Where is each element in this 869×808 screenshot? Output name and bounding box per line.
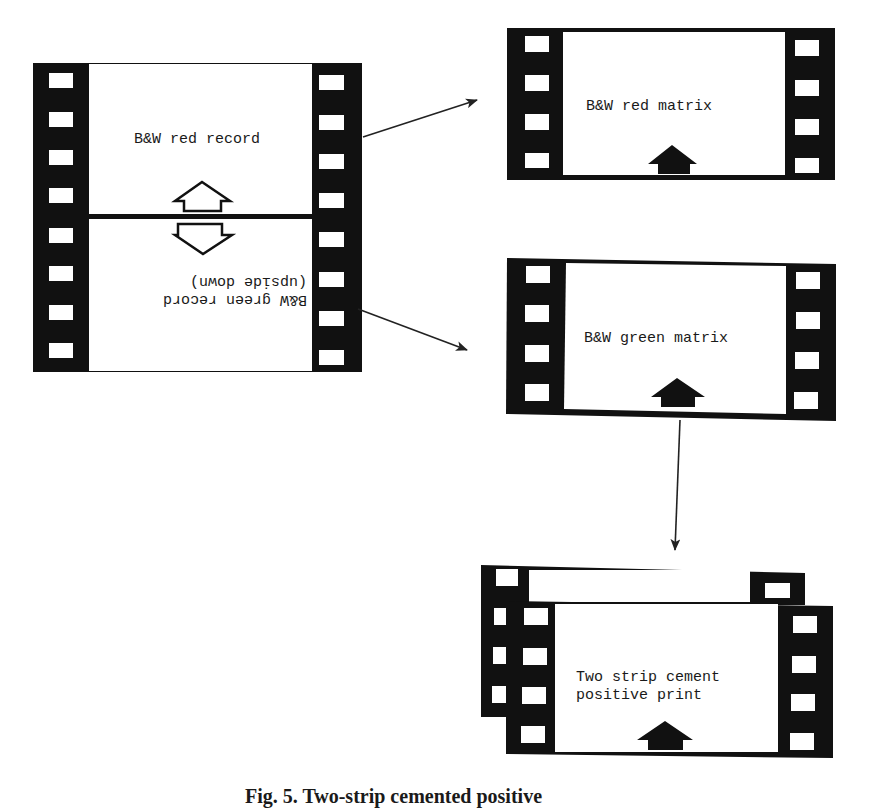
red-record-label: B&W red record (134, 131, 260, 149)
figure-caption: Fig. 5. Two-strip cemented positive (245, 784, 542, 808)
frame-divider-line (89, 214, 312, 218)
green-matrix-label: B&W green matrix (584, 330, 728, 348)
green-record-label-upside-down: B&W green record (upside down) (107, 268, 307, 308)
arrow-green-matrix-to-positive-print (675, 420, 680, 550)
upside-down-note: (upside down) (107, 272, 307, 290)
green-record-label-line: B&W green record (107, 290, 307, 308)
arrow-red-record-to-red-matrix (363, 100, 477, 137)
positive-print-film-strips (481, 565, 833, 758)
arrow-green-record-to-green-matrix (358, 309, 467, 350)
positive-print-label-line2: positive print (576, 687, 702, 705)
positive-print-label-line1: Two strip cement (576, 669, 720, 687)
red-matrix-label: B&W red matrix (586, 98, 712, 116)
